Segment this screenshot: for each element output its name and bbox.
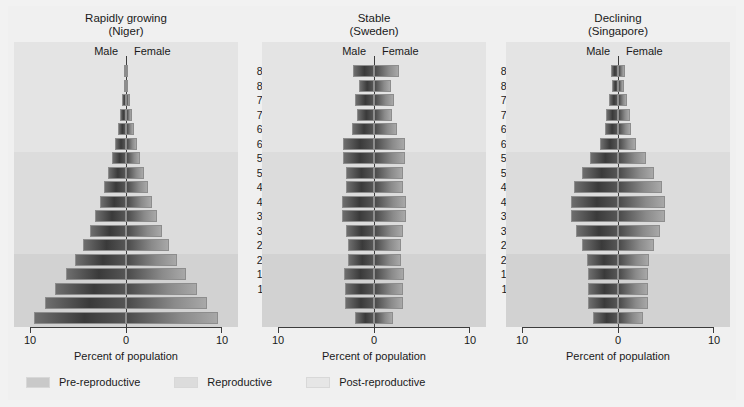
pyramid-row xyxy=(14,137,238,152)
pyramid-row xyxy=(262,151,486,166)
x-tick-center xyxy=(374,327,375,333)
x-tick-label-center: 0 xyxy=(371,334,377,346)
pyramid-row xyxy=(262,311,486,326)
legend-item: Pre-reproductive xyxy=(26,376,140,388)
bar-female xyxy=(374,297,403,309)
bar-female xyxy=(618,196,665,208)
bar-female xyxy=(618,239,654,251)
bar-male xyxy=(588,268,618,280)
male-label: Male xyxy=(342,45,366,57)
bar-male xyxy=(75,254,126,266)
bar-male xyxy=(343,152,374,164)
pyramid-row xyxy=(262,296,486,311)
pyramid-row xyxy=(262,108,486,123)
bars-sweden xyxy=(262,64,486,325)
bar-male xyxy=(34,312,126,324)
bar-male xyxy=(118,123,126,135)
bar-male xyxy=(115,138,126,150)
pyramid-row xyxy=(262,93,486,108)
bar-female xyxy=(618,210,665,222)
female-label: Female xyxy=(626,45,663,57)
panel-title-singapore: Declining (Singapore) xyxy=(506,12,730,38)
bar-male xyxy=(343,138,374,150)
pyramid-row xyxy=(506,238,730,253)
pyramid-row xyxy=(262,267,486,282)
legend-label: Reproductive xyxy=(207,376,272,388)
pyramid-row xyxy=(506,195,730,210)
bar-male xyxy=(606,109,618,121)
bar-male xyxy=(359,80,374,92)
pyramid-row xyxy=(262,282,486,297)
population-pyramid-figure: Rapidly growing (Niger) Male Female 10 0… xyxy=(0,0,744,407)
pyramid-row xyxy=(14,122,238,137)
bar-female xyxy=(126,196,152,208)
bar-male xyxy=(66,268,126,280)
bar-female xyxy=(374,210,406,222)
bar-male xyxy=(346,225,374,237)
legend-item: Post-reproductive xyxy=(306,376,425,388)
pyramid-row xyxy=(262,166,486,181)
bar-male xyxy=(605,123,618,135)
x-tick-label-center: 0 xyxy=(615,334,621,346)
legend-swatch xyxy=(26,377,50,388)
male-label: Male xyxy=(94,45,118,57)
bar-female xyxy=(126,268,186,280)
bar-female xyxy=(374,312,393,324)
pyramid-row xyxy=(262,64,486,79)
pyramid-row xyxy=(14,253,238,268)
bar-male xyxy=(353,65,374,77)
legend-label: Pre-reproductive xyxy=(59,376,140,388)
bar-female xyxy=(126,152,140,164)
bar-male xyxy=(344,268,374,280)
bar-female xyxy=(618,283,648,295)
x-tick-right xyxy=(713,327,714,333)
pyramid-row xyxy=(262,209,486,224)
bar-male xyxy=(90,225,126,237)
pyramid-row xyxy=(262,253,486,268)
bar-male xyxy=(357,109,374,121)
bar-female xyxy=(126,94,130,106)
bar-female xyxy=(618,312,643,324)
legend-item: Reproductive xyxy=(174,376,272,388)
bar-female xyxy=(374,167,403,179)
bar-female xyxy=(126,123,134,135)
x-axis-title-singapore: Percent of population xyxy=(506,350,730,362)
pyramid-row xyxy=(14,180,238,195)
bar-female xyxy=(618,167,654,179)
x-tick-label-left: 10 xyxy=(272,334,284,346)
pyramid-row xyxy=(506,209,730,224)
bar-female xyxy=(374,254,401,266)
x-tick-right xyxy=(221,327,222,333)
bar-female xyxy=(618,123,631,135)
bar-female xyxy=(618,138,636,150)
bar-male xyxy=(355,94,374,106)
pyramid-row xyxy=(14,151,238,166)
bar-female xyxy=(618,268,648,280)
pyramid-row xyxy=(14,209,238,224)
x-tick-center xyxy=(126,327,127,333)
bar-female xyxy=(618,297,648,309)
bar-male xyxy=(95,210,126,222)
pyramid-row xyxy=(14,296,238,311)
pyramid-row xyxy=(14,311,238,326)
pyramid-row xyxy=(262,180,486,195)
x-tick-label-center: 0 xyxy=(123,334,129,346)
x-axis-title-niger: Percent of population xyxy=(14,350,238,362)
bar-female xyxy=(126,283,197,295)
bar-male xyxy=(588,283,618,295)
bar-female xyxy=(374,138,405,150)
bar-male xyxy=(348,239,374,251)
pyramid-row xyxy=(506,151,730,166)
pyramid-row xyxy=(14,224,238,239)
bar-male xyxy=(108,167,126,179)
x-tick-label-right: 10 xyxy=(708,334,720,346)
panel-rapidly-growing-niger: Rapidly growing (Niger) Male Female 10 0… xyxy=(14,12,238,357)
pyramid-row xyxy=(506,79,730,94)
bar-female xyxy=(374,181,403,193)
pyramid-row xyxy=(506,93,730,108)
bar-male xyxy=(342,210,374,222)
pyramid-row xyxy=(506,282,730,297)
pyramid-row xyxy=(14,238,238,253)
bar-female xyxy=(374,225,403,237)
pyramid-row xyxy=(506,253,730,268)
